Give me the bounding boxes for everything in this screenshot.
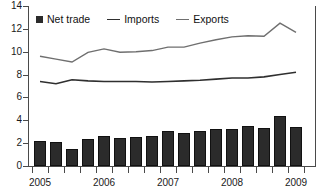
x-axis-tick <box>64 167 65 173</box>
x-axis-tick <box>256 167 257 173</box>
line-swatch-icon <box>107 19 120 20</box>
x-axis-tick <box>272 167 273 173</box>
y-axis-tick-label: 14 <box>0 1 22 11</box>
x-axis-tick <box>176 167 177 173</box>
x-axis-year-label: 2006 <box>84 177 124 188</box>
y-axis-tick <box>23 166 28 167</box>
line-series-group <box>28 6 316 166</box>
legend-label-imports: Imports <box>124 13 159 25</box>
chart-legend: Net trade Imports Exports <box>36 13 229 25</box>
y-axis-tick-label: 0 <box>0 161 22 171</box>
y-axis-tick-label: 10 <box>0 47 22 57</box>
plot-area <box>28 6 316 166</box>
x-axis-tick <box>96 167 97 173</box>
legend-item-net-trade: Net trade <box>36 13 90 25</box>
y-axis-tick-label: 2 <box>0 138 22 148</box>
x-axis-year-label: 2005 <box>20 177 60 188</box>
x-axis-tick <box>112 167 113 173</box>
trade-chart: 02468101214 20052006200720082009 Net tra… <box>0 0 321 194</box>
x-axis-tick <box>192 167 193 173</box>
x-axis-year-label: 2007 <box>148 177 188 188</box>
line-swatch-icon <box>176 19 189 20</box>
y-axis-tick-label: 12 <box>0 24 22 34</box>
x-axis-tick <box>288 167 289 173</box>
x-axis-tick <box>240 167 241 173</box>
x-axis-tick <box>208 167 209 173</box>
x-axis-tick <box>224 167 225 173</box>
x-axis-year-label: 2008 <box>212 177 252 188</box>
x-axis-tick <box>48 167 49 173</box>
legend-item-imports: Imports <box>107 13 159 25</box>
exports-line <box>40 23 296 62</box>
x-axis-year-label: 2009 <box>276 177 316 188</box>
y-axis-tick-label: 4 <box>0 115 22 125</box>
x-axis-tick <box>128 167 129 173</box>
legend-label-exports: Exports <box>193 13 229 25</box>
legend-label-net-trade: Net trade <box>47 13 90 25</box>
x-axis-tick <box>160 167 161 173</box>
x-axis-tick <box>304 167 305 173</box>
legend-item-exports: Exports <box>176 13 229 25</box>
x-axis-tick <box>32 167 33 173</box>
x-axis-tick <box>144 167 145 173</box>
x-axis-tick <box>80 167 81 173</box>
square-swatch-icon <box>36 16 43 23</box>
imports-line <box>40 72 296 83</box>
y-axis-tick-label: 8 <box>0 70 22 80</box>
y-axis-labels: 02468101214 <box>0 0 22 194</box>
y-axis-tick-label: 6 <box>0 92 22 102</box>
